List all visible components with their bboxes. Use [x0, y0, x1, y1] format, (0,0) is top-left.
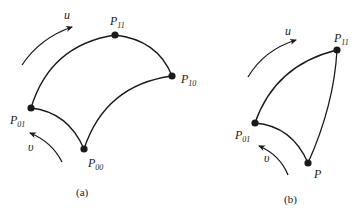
label-p11: P11 — [333, 31, 349, 47]
u-direction-arrow-icon — [248, 40, 296, 77]
u-direction-arrow-icon — [22, 27, 72, 65]
label-p: P — [313, 167, 322, 181]
point-p11 — [111, 31, 118, 38]
v-direction-arrow-icon — [30, 133, 62, 162]
curve-p11-p10 — [115, 35, 172, 76]
point-p — [304, 159, 311, 166]
label-p10: P10 — [180, 72, 196, 88]
curve-p01-p00 — [31, 108, 84, 149]
label-p00: P00 — [87, 156, 103, 172]
u-label: u — [285, 24, 291, 38]
v-label: υ — [28, 140, 34, 154]
label-p01: P01 — [9, 113, 25, 129]
caption-a: (a) — [76, 186, 89, 199]
point-p00 — [80, 145, 87, 152]
curve-p-p11 — [308, 50, 337, 163]
curve-p01-p — [255, 123, 308, 163]
u-label: u — [64, 8, 70, 22]
caption-b: (b) — [284, 193, 297, 206]
bilinear-patch-figure: u υ P01 P00 P10 P11 (a) u — [0, 0, 360, 216]
panel-a: u υ P01 P00 P10 P11 (a) — [9, 8, 196, 199]
point-p01 — [27, 104, 34, 111]
point-p01 — [251, 119, 258, 126]
point-p11 — [333, 46, 340, 53]
label-p01: P01 — [234, 128, 250, 144]
label-p11: P11 — [109, 14, 125, 30]
curve-p01-p11 — [255, 50, 337, 123]
curve-p01-p11 — [31, 35, 115, 108]
v-label: υ — [264, 151, 270, 165]
point-p10 — [168, 72, 175, 79]
figure-svg: u υ P01 P00 P10 P11 (a) u — [0, 0, 360, 216]
curve-p00-p10 — [84, 76, 172, 149]
panel-b: u υ P01 P P11 (b) — [234, 24, 349, 206]
